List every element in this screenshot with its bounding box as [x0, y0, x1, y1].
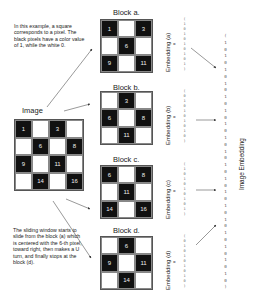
- arrow-embedding-d: [196, 225, 216, 245]
- arrow-image-to-block-a: [47, 49, 92, 107]
- arrow-image-to-block-b: [64, 104, 90, 111]
- arrow-image-to-block-d: [53, 201, 91, 258]
- arrows-layer: [0, 0, 258, 305]
- arrow-embedding-a: [191, 48, 216, 68]
- arrow-image-to-block-c: [66, 199, 90, 209]
